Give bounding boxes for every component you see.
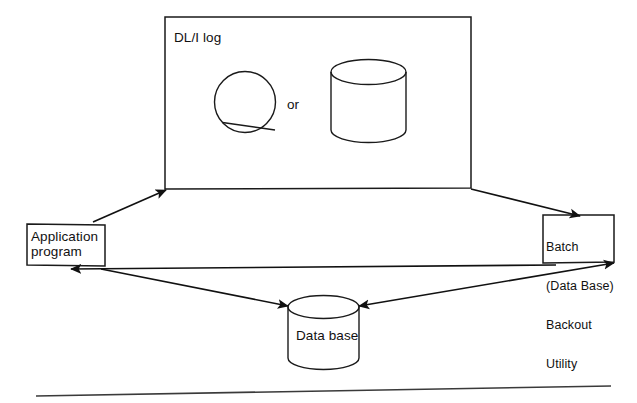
connector-application-program-to-dli-log bbox=[93, 190, 166, 222]
data-base-label: Data base bbox=[296, 328, 358, 343]
batch-utility-line-2: (Data Base) bbox=[546, 280, 614, 293]
batch-utility-line-4: Utility bbox=[546, 358, 614, 371]
page-rule bbox=[36, 386, 611, 396]
batch-backout-utility-label: Batch (Data Base) Backout Utility bbox=[546, 215, 614, 397]
connector-batch-utility-to-application-program bbox=[71, 265, 556, 269]
batch-utility-line-1: Batch bbox=[546, 241, 614, 254]
connector-dli-log-to-batch-utility bbox=[471, 189, 580, 216]
dli-log-label: DL/I log bbox=[174, 30, 221, 45]
diagram-canvas: DL/I log or Application program Batch (D… bbox=[0, 0, 637, 403]
connector-application-program-to-data-base bbox=[101, 269, 288, 306]
batch-utility-line-3: Backout bbox=[546, 319, 614, 332]
or-label: or bbox=[287, 97, 299, 112]
application-program-label: Application program bbox=[31, 229, 98, 259]
